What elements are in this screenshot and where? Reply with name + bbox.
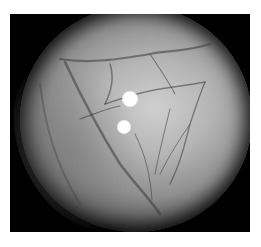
endoscope-frame xyxy=(10,14,250,232)
light-reflection-1 xyxy=(122,91,138,107)
light-reflection-2 xyxy=(117,120,131,134)
